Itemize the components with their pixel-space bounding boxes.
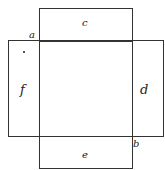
vertex-label-a: a bbox=[29, 30, 35, 40]
face-label-e: e bbox=[82, 150, 88, 160]
vertex-label-b: b bbox=[133, 139, 139, 149]
face-label-d: d bbox=[140, 83, 148, 96]
center-face bbox=[39, 40, 133, 137]
mark-dot bbox=[23, 51, 25, 53]
face-label-f: f bbox=[20, 83, 25, 96]
face-label-c: c bbox=[82, 18, 88, 28]
